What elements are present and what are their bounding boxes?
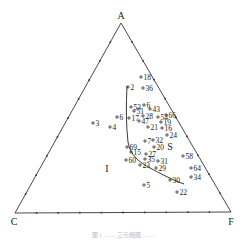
plus-marker-icon: [165, 133, 169, 137]
sample-point-label: 60: [129, 156, 137, 165]
ternary-diagram: 1823653643513641747285466192116247326915…: [0, 0, 247, 244]
tick-mark: [197, 154, 199, 156]
tick-mark: [46, 155, 48, 157]
sample-point-label: 20: [157, 143, 165, 152]
tick-mark: [142, 60, 144, 62]
tick-mark: [88, 79, 90, 81]
plus-marker-icon: [142, 183, 146, 187]
plus-marker-icon: [141, 86, 145, 90]
plus-marker-icon: [154, 166, 158, 170]
plus-marker-icon: [138, 163, 142, 167]
sample-point-label: 64: [194, 164, 202, 173]
edge-ticks: [25, 41, 221, 214]
plus-marker-icon: [108, 125, 112, 129]
vertex-label-left: C: [11, 216, 18, 227]
tick-mark: [165, 211, 167, 213]
sample-point: 3: [91, 119, 100, 128]
tick-mark: [110, 41, 112, 43]
tick-mark: [122, 212, 124, 214]
sample-point-label: 34: [194, 173, 202, 182]
sample-point: 58: [181, 152, 193, 161]
plus-marker-icon: [124, 158, 128, 162]
plus-marker-icon: [139, 75, 143, 79]
plus-marker-icon: [152, 145, 156, 149]
sample-point-label: 7: [148, 137, 152, 146]
sample-point-label: 5: [147, 181, 151, 190]
sample-point: 34: [189, 173, 201, 182]
tick-mark: [35, 174, 37, 176]
vertex-label-right: F: [228, 216, 234, 227]
sample-points: 1823653643513641747285466192116247326915…: [91, 73, 201, 197]
ternary-plot-canvas: 1823653643513641747285466192116247326915…: [0, 0, 247, 244]
plus-marker-icon: [129, 105, 133, 109]
plus-marker-icon: [189, 175, 193, 179]
tick-mark: [36, 212, 38, 214]
tick-mark: [187, 211, 189, 213]
tick-mark: [25, 193, 27, 195]
plus-marker-icon: [91, 121, 95, 125]
plus-marker-icon: [146, 125, 150, 129]
plus-marker-icon: [127, 116, 131, 120]
sample-point: 18: [139, 73, 151, 82]
sample-point-label: 58: [186, 152, 194, 161]
sample-point: 64: [189, 164, 201, 173]
plus-marker-icon: [175, 190, 179, 194]
sample-point-label: 24: [170, 131, 178, 140]
sample-point: 2: [126, 83, 135, 92]
sample-point-label: 22: [180, 188, 188, 197]
tick-mark: [144, 212, 146, 214]
sample-point: 5: [142, 181, 151, 190]
plus-marker-icon: [115, 115, 119, 119]
tick-mark: [101, 212, 103, 214]
tick-mark: [153, 79, 155, 81]
tick-mark: [79, 212, 81, 214]
sample-point-label: 29: [159, 164, 167, 173]
sample-point-label: 3: [96, 119, 100, 128]
sample-point-label: 21: [151, 123, 159, 132]
sample-point-label: 2: [131, 83, 135, 92]
sample-point-label: 30: [173, 176, 181, 185]
sample-point-label: 36: [146, 84, 154, 93]
sample-point: 6: [115, 113, 124, 122]
sample-point-label: 6: [120, 113, 124, 122]
plus-marker-icon: [160, 126, 164, 130]
figure-caption: 图 1 …… 三元相图 ……: [92, 231, 155, 239]
plus-marker-icon: [189, 166, 193, 170]
tick-mark: [164, 98, 166, 100]
plus-marker-icon: [151, 138, 155, 142]
sample-point-label: 23: [143, 161, 151, 170]
tick-mark: [186, 136, 188, 138]
sample-point-label: 28: [146, 112, 154, 121]
tick-mark: [209, 211, 211, 213]
field-label-i: I: [105, 163, 108, 174]
tick-mark: [208, 173, 210, 175]
sample-point: 60: [124, 156, 136, 165]
sample-point: 30: [168, 176, 180, 185]
tick-mark: [99, 60, 101, 62]
tick-mark: [131, 41, 133, 43]
sample-point: 4: [108, 123, 117, 132]
tick-mark: [57, 136, 59, 138]
vertex-label-top: A: [117, 10, 125, 21]
field-label-s: S: [167, 141, 173, 152]
sample-point: 36: [141, 84, 153, 93]
sample-point-label: 18: [144, 73, 152, 82]
plus-marker-icon: [156, 159, 160, 163]
plus-marker-icon: [156, 115, 160, 119]
sample-point: 7: [143, 137, 152, 146]
tick-mark: [78, 98, 80, 100]
tick-mark: [57, 212, 59, 214]
sample-point-label: 43: [153, 105, 161, 114]
sample-point-label: 4: [113, 123, 117, 132]
tick-mark: [67, 117, 69, 119]
plus-marker-icon: [143, 139, 147, 143]
sample-point: 22: [175, 188, 187, 197]
plus-marker-icon: [181, 154, 185, 158]
tick-mark: [219, 192, 221, 194]
